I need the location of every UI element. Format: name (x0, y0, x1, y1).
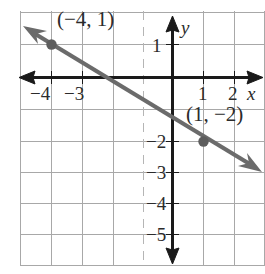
x-tick-label-2: 2 (228, 84, 238, 103)
y-axis-name-label: y (181, 18, 189, 37)
y-tick-label-1: 1 (152, 36, 162, 55)
y-tick-label-neg-4: −4 (146, 194, 166, 213)
x-tick-label-1: 1 (198, 84, 208, 103)
y-axis-arrow-up (166, 16, 179, 32)
line-arrow-lower-right (238, 153, 262, 172)
point-label-upper-left: (−4, 1) (57, 9, 114, 30)
x-tick-label-neg-3: −3 (64, 84, 84, 103)
y-tick-label-neg-5: −5 (146, 225, 166, 244)
x-tick-label-neg-4: −4 (30, 84, 50, 103)
data-point-1-neg2 (198, 136, 208, 146)
coordinate-plane-figure: (−4, 1) (1, −2) y x −4 −3 1 2 1 −2 −3 −4… (0, 0, 265, 274)
graph-canvas (0, 0, 265, 274)
y-tick-label-neg-2: −2 (146, 132, 166, 151)
point-label-lower-right: (1, −2) (186, 104, 243, 125)
plotted-line-group (23, 26, 262, 172)
y-tick-label-neg-3: −3 (146, 163, 166, 182)
y-axis-arrow-down (166, 248, 179, 264)
x-axis-name-label: x (247, 84, 255, 103)
data-point-neg4-1 (46, 39, 56, 49)
axes (19, 16, 263, 264)
